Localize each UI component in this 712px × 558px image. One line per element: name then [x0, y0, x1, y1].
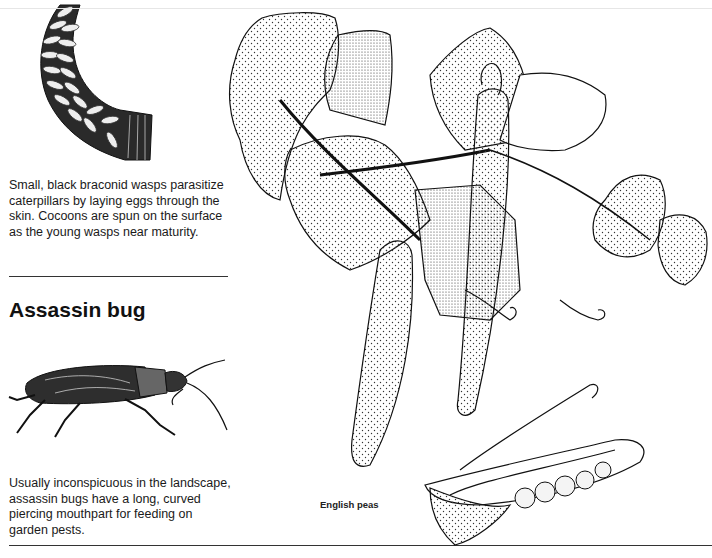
- braconid-wasps-caption: Small, black braconid wasps parasitize c…: [9, 178, 234, 240]
- caterpillar-with-cocoons-illustration: [20, 0, 160, 170]
- section-divider: [9, 276, 228, 277]
- english-peas-label: English peas: [320, 499, 379, 510]
- assassin-bug-illustration: [5, 355, 230, 445]
- pea-plant-illustration: [220, 0, 712, 546]
- assassin-bug-caption: Usually inconspicuous in the landscape, …: [9, 476, 234, 538]
- assassin-bug-heading: Assassin bug: [9, 298, 146, 322]
